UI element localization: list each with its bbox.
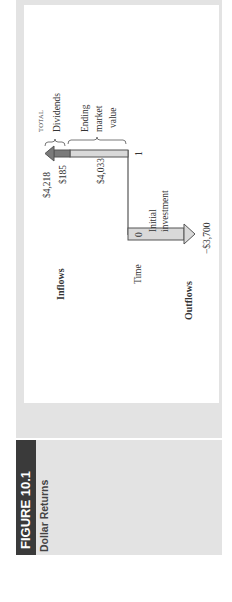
initial-investment-label-2: investment [160,190,170,232]
total-value: $4,218 [42,172,52,198]
dividends-value: $185 [58,165,68,184]
ending-value-label-3: value [108,107,118,128]
initial-investment-value: −$3,700 [202,223,212,254]
time-point-0: 0 [134,232,144,237]
ending-value-value: $4,033 [96,158,106,184]
total-label: TOTAL [36,110,46,132]
outflows-label: Outflows [184,281,194,320]
initial-investment-label-1: Initial [148,209,158,232]
ending-value-label-1: Ending [80,105,90,132]
dividends-segment [54,150,70,157]
inflow-stacked-bar [45,146,128,161]
inflows-label: Inflows [56,268,66,300]
figure-stage: FIGURE 10.1 Dollar Returns TOTAL $4,218 … [0,0,232,602]
time-axis-label: Time [133,264,143,284]
ending-value-label-2: market [94,106,104,132]
ending-value-brace [68,137,126,144]
cash-flow-graphic [0,0,232,602]
time-point-1: 1 [134,151,144,156]
dividends-brace [45,139,65,146]
inflow-arrowhead [45,146,54,161]
dividends-label: Dividends [52,93,62,132]
ending-value-segment [70,150,128,157]
